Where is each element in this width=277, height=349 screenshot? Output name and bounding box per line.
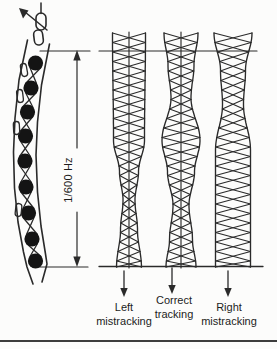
track-pattern-correct-tracking <box>162 32 200 268</box>
arrowhead <box>224 288 231 297</box>
label-right-mistracking: Right mistracking <box>201 301 257 328</box>
zigzag-line <box>169 176 194 186</box>
label-line: mistracking <box>201 315 257 327</box>
track-pattern-right-mistracking <box>214 33 252 267</box>
zigzag-line <box>170 100 191 110</box>
tracking-direction-arrow-icon <box>224 271 231 297</box>
zigzag-line <box>167 109 193 119</box>
chain-roller <box>20 104 35 119</box>
zigzag-line <box>171 100 192 110</box>
tracking-direction-arrow-icon <box>168 268 175 294</box>
chain-assembly <box>13 3 49 284</box>
zigzag-line <box>120 242 140 252</box>
zigzag-line <box>219 119 245 129</box>
label-line: Left <box>115 301 133 313</box>
zigzag-line <box>168 176 193 186</box>
zigzag-line <box>220 52 249 62</box>
chain-side-link-icon <box>15 203 22 217</box>
zigzag-line <box>169 185 190 195</box>
bottom-rule <box>0 340 277 342</box>
zigzag-line <box>217 52 246 62</box>
chain-roller <box>17 153 32 168</box>
band-right-edge <box>36 44 50 282</box>
zigzag-line <box>121 176 138 186</box>
zigzag-line <box>173 214 191 224</box>
zigzag-line <box>171 214 189 224</box>
zigzag-line <box>164 119 196 129</box>
chain-roller <box>18 179 33 194</box>
zigzag-line <box>172 195 189 205</box>
dimension-arrowhead-down-icon <box>73 257 80 268</box>
zigzag-line <box>166 252 193 262</box>
label-correct-tracking: Correct tracking <box>155 294 194 321</box>
zigzag-line <box>165 147 199 157</box>
zigzag-line <box>168 252 195 262</box>
arrowhead <box>168 285 175 294</box>
zigzag-line <box>118 242 138 252</box>
label-line: Correct <box>156 294 192 306</box>
zigzag-line <box>165 157 195 167</box>
zigzag-line <box>217 128 247 138</box>
zigzag-line <box>173 195 190 205</box>
zigzag-line <box>119 157 141 167</box>
zigzag-line <box>167 119 199 129</box>
zigzag-line <box>219 128 249 138</box>
zigzag-line <box>221 119 247 129</box>
tracking-direction-arrow-icon <box>120 271 127 297</box>
figure-root: 1/600 Hz Left mistracking Correct tracki… <box>0 0 277 349</box>
dimension-frequency-label: 1/600 Hz <box>62 157 74 203</box>
label-line: tracking <box>155 308 194 320</box>
zigzag-line <box>120 176 137 186</box>
chain-roller <box>23 80 38 95</box>
track-pattern-left-mistracking <box>113 32 146 268</box>
zigzag-line <box>121 185 135 195</box>
zigzag-line <box>171 223 192 233</box>
zigzag-line <box>117 147 144 157</box>
zigzag-line <box>170 109 196 119</box>
chain-roller <box>24 231 39 246</box>
tracking-diagram <box>0 0 277 349</box>
zigzag-line <box>172 185 193 195</box>
zigzag-line <box>114 147 141 157</box>
zigzag-line <box>167 157 197 167</box>
chain-roller <box>28 253 43 268</box>
zigzag-line <box>123 185 137 195</box>
zigzag-line <box>117 157 139 167</box>
chain-side-link-icon <box>20 63 28 77</box>
chain-side-link-icon <box>16 89 24 103</box>
label-line: Right <box>216 301 242 313</box>
chain-link-icon <box>33 30 44 46</box>
zigzag-line <box>163 147 197 157</box>
label-left-mistracking: Left mistracking <box>96 301 152 328</box>
chain-roller <box>28 55 43 70</box>
chain-roller <box>21 205 36 220</box>
arrowhead <box>120 288 127 297</box>
label-line: mistracking <box>96 315 152 327</box>
zigzag-line <box>170 223 191 233</box>
